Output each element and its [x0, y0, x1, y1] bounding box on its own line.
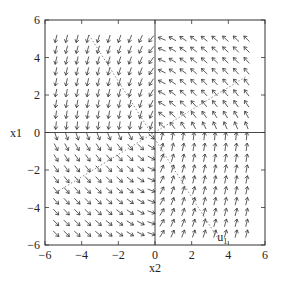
y-tick-label: −6	[27, 238, 40, 252]
x-tick-label: −2	[112, 248, 125, 262]
y-tick-label: 4	[34, 51, 40, 65]
x-axis-label: x2	[149, 261, 161, 275]
x-tick-label: 2	[189, 248, 195, 262]
x-tick-label: 6	[262, 248, 268, 262]
y-tick-label: −2	[27, 163, 40, 177]
vector-arrows	[53, 35, 249, 238]
separatrix	[89, 35, 217, 238]
x-tick-label: 0	[152, 248, 158, 262]
x-tick-label: 4	[225, 248, 231, 262]
x-tick-label: −4	[75, 248, 88, 262]
y-tick-label: 2	[34, 88, 40, 102]
y-axis-label: x1	[10, 126, 22, 140]
y-tick-label: 6	[34, 13, 40, 27]
y-tick-label: −4	[27, 201, 40, 215]
axis-ticks: −6−4−20246−6−4−20246	[27, 13, 268, 262]
y-tick-label: 0	[34, 126, 40, 140]
vector-field-plot: −6−4−20246−6−4−20246 x2 x1 u1	[0, 0, 282, 284]
x-tick-label: −6	[39, 248, 52, 262]
